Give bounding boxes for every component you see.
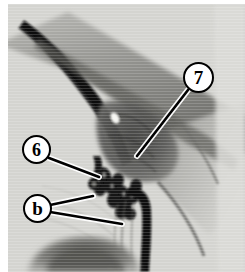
annotation-marker-7[interactable]: 7 bbox=[183, 62, 214, 93]
annotation-marker-6[interactable]: 6 bbox=[22, 135, 51, 164]
annotation-label-7: 7 bbox=[194, 68, 204, 87]
annotation-marker-b[interactable]: b bbox=[23, 194, 52, 223]
annotation-label-6: 6 bbox=[32, 141, 41, 159]
annotation-label-b: b bbox=[32, 199, 43, 218]
figure-panel: 7 6 b bbox=[0, 0, 245, 272]
